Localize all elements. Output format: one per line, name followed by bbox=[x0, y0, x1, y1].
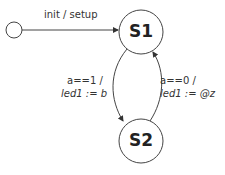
transition-init-label: init / setup bbox=[44, 9, 98, 21]
transition-s1-s2-guard: a==1 / bbox=[67, 75, 103, 87]
transition-s1-s2-action: led1 := b bbox=[61, 88, 107, 100]
transition-s1-to-s2 bbox=[113, 49, 127, 121]
state-s2-label: S2 bbox=[121, 130, 161, 150]
initial-state-node[interactable] bbox=[6, 22, 22, 38]
state-s1-label: S1 bbox=[121, 21, 161, 41]
transition-s2-s1-guard: a==0 / bbox=[160, 75, 196, 87]
transition-s2-s1-action: led1 := @z bbox=[160, 88, 215, 100]
